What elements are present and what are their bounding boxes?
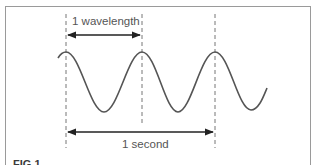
wavelength-label: 1 wavelength: [72, 15, 140, 27]
period-label: 1 second: [122, 138, 169, 150]
dashed-markers: [66, 14, 215, 148]
figure-label: FIG 1: [13, 158, 41, 165]
sine-wave: [58, 52, 267, 112]
